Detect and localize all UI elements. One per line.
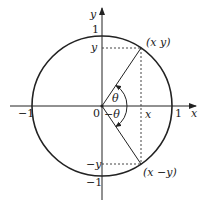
point-upper-label: (x y) [146,36,171,49]
point-lower-label: (x −y) [143,166,177,179]
y-coord-label: y [90,41,98,54]
x-coord-label: x [145,108,152,121]
y-tick-1: 1 [92,23,99,36]
neg-theta-label: −θ [104,108,120,121]
radius-upper [102,48,141,106]
theta-label: θ [112,92,119,105]
y-tick-neg-1: −1 [86,176,102,189]
y-axis-label: y [89,8,97,21]
diagram-svg: y 1 y (x y) θ 0 −θ x 1 x −1 −y (x −y) −1 [0,0,201,203]
x-tick-1: 1 [175,107,182,120]
neg-y-coord-label: −y [86,158,102,171]
x-tick-neg-1: −1 [18,107,34,120]
x-axis-label: x [191,107,198,120]
origin-label: 0 [93,107,100,120]
unit-circle-diagram: y 1 y (x y) θ 0 −θ x 1 x −1 −y (x −y) −1 [0,0,201,203]
